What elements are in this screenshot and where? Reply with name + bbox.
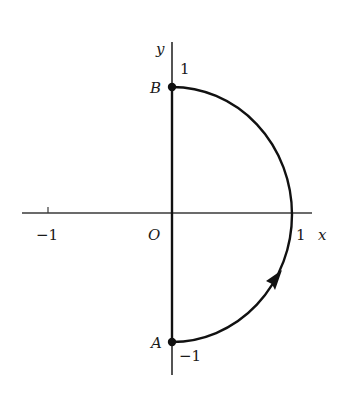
point-a-label: A: [149, 334, 162, 352]
origin-label: O: [148, 226, 160, 244]
semicircle-arc: [172, 87, 292, 342]
x-axis-label: x: [318, 226, 327, 244]
point-b-label: B: [149, 79, 161, 97]
point-a: [168, 338, 176, 346]
point-b: [168, 83, 176, 91]
y-tick-neg1-label: −1: [179, 347, 201, 365]
x-tick-pos1-label: 1: [296, 226, 306, 244]
y-axis-label: y: [155, 40, 165, 58]
contour-diagram: y 1 B −1 O 1 x A −1: [0, 0, 347, 396]
y-tick-pos1-label: 1: [180, 60, 190, 78]
x-tick-neg1-label: −1: [36, 226, 58, 244]
direction-arrow-icon: [266, 270, 282, 290]
